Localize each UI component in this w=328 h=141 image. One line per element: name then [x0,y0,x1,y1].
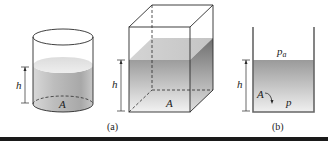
box-container: h A (a) [107,5,213,133]
cylinder-rim [33,29,93,45]
bottom-pressure-label: p [285,96,292,108]
container-liquid [253,60,314,112]
cylinder-liquid-surface [33,57,93,73]
caption-a: (a) [107,121,118,133]
arrowhead-icon [120,60,123,64]
area-label: A [58,98,66,110]
height-label: h [237,78,243,90]
area-label: A [256,88,264,100]
fluid-pressure-figure: h A h A (a) h [0,0,328,141]
bottom-rule [0,137,328,141]
surface-pressure-label: pa [276,45,287,59]
box-liquid-front [129,60,190,112]
caption-b: (b) [272,121,284,133]
height-label: h [112,78,118,90]
cylinder-container: h A [16,29,93,112]
area-label: A [165,97,173,109]
open-container: h pa A p (b) [237,27,314,133]
arrowhead-icon [24,67,27,71]
arrowhead-icon [245,60,248,64]
height-label: h [16,79,22,91]
